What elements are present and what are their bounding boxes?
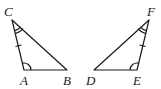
angle-arc-c-inner [15, 27, 21, 31]
vertex-label-f: F [147, 5, 155, 18]
vertex-label-b: B [63, 74, 71, 87]
vertex-label-d: D [86, 74, 95, 87]
angle-arc-f-outer [138, 29, 146, 34]
vertex-label-e: E [133, 74, 141, 87]
angle-arc-f-inner [140, 27, 146, 31]
tick-fe [140, 45, 146, 47]
vertex-label-a: A [20, 74, 28, 87]
tick-ca [16, 45, 22, 47]
angle-arc-c-outer [15, 29, 23, 34]
vertex-label-c: C [4, 5, 13, 18]
congruent-triangles-diagram: C A B F D E [0, 0, 161, 89]
